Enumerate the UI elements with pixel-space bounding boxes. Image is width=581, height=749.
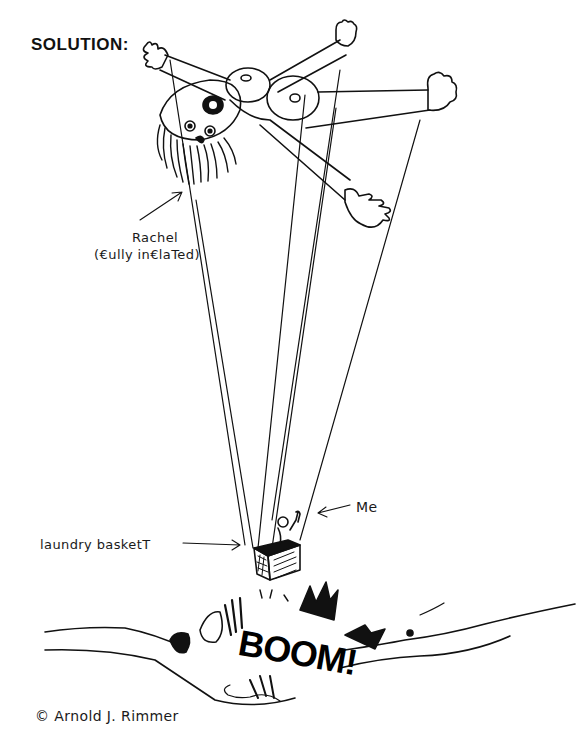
left-hand-icon: [143, 42, 168, 69]
solution-heading: SOLUTION:: [31, 35, 129, 55]
rachel-figure: [143, 20, 456, 227]
basket-arrow-icon: [183, 540, 240, 550]
nose-icon: [196, 136, 204, 142]
me-head: [278, 517, 288, 527]
me-arrow-icon: [318, 505, 350, 517]
upper-foot-icon: [336, 20, 357, 46]
rachel-arrow-icon: [140, 192, 182, 220]
hair: [157, 125, 236, 184]
tether-lines: [170, 60, 420, 548]
rachel-note: (€ully in€laTed): [88, 246, 206, 263]
rachel-label: Rachel (€ully in€laTed): [96, 229, 206, 263]
lower-hand-icon: [345, 189, 390, 227]
copyright-credit: © Arnold J. Rimmer: [35, 708, 179, 725]
rachel-name: Rachel: [96, 229, 206, 246]
me-label: Me: [356, 499, 378, 516]
right-foot-icon: [428, 72, 457, 110]
basket-label: laundry basketT: [40, 536, 151, 553]
